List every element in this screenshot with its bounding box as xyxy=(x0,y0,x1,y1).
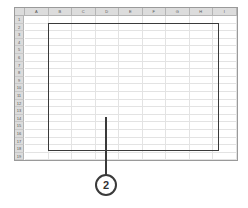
row-header-2[interactable]: 2 xyxy=(15,24,24,32)
row-header-15[interactable]: 15 xyxy=(15,122,24,130)
row-header-7[interactable]: 7 xyxy=(15,62,24,70)
row-header-1[interactable]: 1 xyxy=(15,16,24,24)
column-header-d[interactable]: D xyxy=(96,8,120,16)
column-header-b[interactable]: B xyxy=(49,8,73,16)
column-header-c[interactable]: C xyxy=(72,8,96,16)
selection-rectangle xyxy=(48,23,219,151)
row-header-4[interactable]: 4 xyxy=(15,39,24,47)
column-header-h[interactable]: H xyxy=(190,8,214,16)
row-gridline xyxy=(25,159,237,160)
row-header-18[interactable]: 18 xyxy=(15,145,24,153)
callout-label: 2 xyxy=(103,179,109,191)
column-gridline xyxy=(236,16,237,160)
row-header-17[interactable]: 17 xyxy=(15,138,24,146)
select-all-corner[interactable] xyxy=(15,8,25,16)
column-header-i[interactable]: I xyxy=(213,8,237,16)
column-header-g[interactable]: G xyxy=(166,8,190,16)
row-header-19[interactable]: 19 xyxy=(15,153,24,161)
row-header-10[interactable]: 10 xyxy=(15,84,24,92)
callout-line xyxy=(105,117,107,175)
row-header-9[interactable]: 9 xyxy=(15,77,24,85)
row-header-6[interactable]: 6 xyxy=(15,54,24,62)
callout-badge: 2 xyxy=(95,174,117,196)
column-header-a[interactable]: A xyxy=(25,8,49,16)
row-header-13[interactable]: 13 xyxy=(15,107,24,115)
row-header-11[interactable]: 11 xyxy=(15,92,24,100)
row-header-16[interactable]: 16 xyxy=(15,130,24,138)
row-header-3[interactable]: 3 xyxy=(15,31,24,39)
row-header-8[interactable]: 8 xyxy=(15,69,24,77)
row-gridline xyxy=(25,152,237,153)
row-header-5[interactable]: 5 xyxy=(15,46,24,54)
column-header-f[interactable]: F xyxy=(143,8,167,16)
row-header-14[interactable]: 14 xyxy=(15,115,24,123)
row-header-12[interactable]: 12 xyxy=(15,100,24,108)
column-header-e[interactable]: E xyxy=(119,8,143,16)
